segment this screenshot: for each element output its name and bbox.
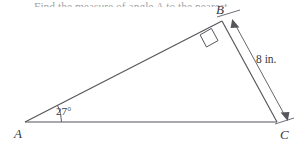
- dimension-arrowhead-top: [231, 19, 240, 28]
- vertex-label-a: A: [13, 126, 22, 141]
- vertex-label-b: B: [216, 2, 224, 17]
- geometry-figure: Find the measure of angle A to the neare…: [0, 0, 306, 149]
- triangle-side-ab: [25, 21, 222, 122]
- triangle-svg: A B C 27° 8 in.: [0, 0, 306, 149]
- triangle-side-bc: [222, 21, 277, 122]
- vertex-label-c: C: [280, 127, 289, 142]
- side-length-label-bc: 8 in.: [256, 53, 277, 65]
- dimension-line-bc: [234, 22, 287, 119]
- angle-measure-label-a: 27°: [56, 105, 71, 117]
- dimension-extension-tick-c: [275, 118, 294, 124]
